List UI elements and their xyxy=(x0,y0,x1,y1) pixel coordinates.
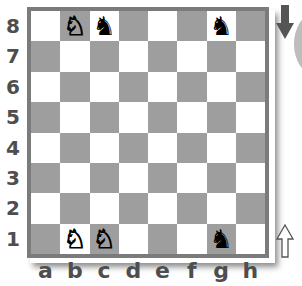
square-f7[interactable] xyxy=(177,41,206,71)
square-a1[interactable] xyxy=(31,224,60,254)
square-d8[interactable] xyxy=(119,11,148,41)
square-e8[interactable] xyxy=(148,11,177,41)
square-c6[interactable] xyxy=(90,72,119,102)
black-knight-icon[interactable]: ♞ xyxy=(92,13,115,39)
white-knight-icon[interactable]: ♘ xyxy=(63,13,86,39)
square-g4[interactable] xyxy=(207,133,236,163)
square-b2[interactable] xyxy=(60,193,89,223)
file-label-d: d xyxy=(119,258,148,283)
decorative-circle xyxy=(294,14,302,74)
file-label-a: a xyxy=(31,258,60,283)
file-label-c: c xyxy=(90,258,119,283)
square-f6[interactable] xyxy=(177,72,206,102)
square-g3[interactable] xyxy=(207,163,236,193)
rank-label-1: 1 xyxy=(3,227,23,251)
rank-label-6: 6 xyxy=(3,75,23,99)
square-b7[interactable] xyxy=(60,41,89,71)
square-e1[interactable] xyxy=(148,224,177,254)
file-label-g: g xyxy=(207,258,236,283)
square-a4[interactable] xyxy=(31,133,60,163)
square-f8[interactable] xyxy=(177,11,206,41)
square-b8[interactable]: ♘ xyxy=(60,11,89,41)
square-d5[interactable] xyxy=(119,102,148,132)
square-g7[interactable] xyxy=(207,41,236,71)
chess-board: ♘♞♞♘♘♞ xyxy=(31,11,265,254)
file-label-e: e xyxy=(148,258,177,283)
square-a3[interactable] xyxy=(31,163,60,193)
square-f4[interactable] xyxy=(177,133,206,163)
square-h5[interactable] xyxy=(236,102,265,132)
rank-label-3: 3 xyxy=(3,166,23,190)
square-g1[interactable]: ♞ xyxy=(207,224,236,254)
square-e3[interactable] xyxy=(148,163,177,193)
square-f1[interactable] xyxy=(177,224,206,254)
file-label-h: h xyxy=(236,258,265,283)
rank-label-7: 7 xyxy=(3,44,23,68)
square-h8[interactable] xyxy=(236,11,265,41)
square-g5[interactable] xyxy=(207,102,236,132)
square-e5[interactable] xyxy=(148,102,177,132)
square-c8[interactable]: ♞ xyxy=(90,11,119,41)
square-e7[interactable] xyxy=(148,41,177,71)
square-f5[interactable] xyxy=(177,102,206,132)
square-c5[interactable] xyxy=(90,102,119,132)
square-c7[interactable] xyxy=(90,41,119,71)
file-label-f: f xyxy=(177,258,206,283)
square-g2[interactable] xyxy=(207,193,236,223)
square-b1[interactable]: ♘ xyxy=(60,224,89,254)
square-g8[interactable]: ♞ xyxy=(207,11,236,41)
square-a6[interactable] xyxy=(31,72,60,102)
square-d4[interactable] xyxy=(119,133,148,163)
square-d3[interactable] xyxy=(119,163,148,193)
square-h2[interactable] xyxy=(236,193,265,223)
square-e4[interactable] xyxy=(148,133,177,163)
rank-label-5: 5 xyxy=(3,105,23,129)
square-b4[interactable] xyxy=(60,133,89,163)
square-h6[interactable] xyxy=(236,72,265,102)
rank-label-2: 2 xyxy=(3,196,23,220)
square-d1[interactable] xyxy=(119,224,148,254)
square-c2[interactable] xyxy=(90,193,119,223)
square-c3[interactable] xyxy=(90,163,119,193)
square-b3[interactable] xyxy=(60,163,89,193)
rank-label-4: 4 xyxy=(3,136,23,160)
square-a7[interactable] xyxy=(31,41,60,71)
square-d7[interactable] xyxy=(119,41,148,71)
file-label-b: b xyxy=(60,258,89,283)
square-e6[interactable] xyxy=(148,72,177,102)
square-a8[interactable] xyxy=(31,11,60,41)
square-h7[interactable] xyxy=(236,41,265,71)
square-f2[interactable] xyxy=(177,193,206,223)
square-d6[interactable] xyxy=(119,72,148,102)
square-a2[interactable] xyxy=(31,193,60,223)
square-c1[interactable]: ♘ xyxy=(90,224,119,254)
square-b6[interactable] xyxy=(60,72,89,102)
square-a5[interactable] xyxy=(31,102,60,132)
square-c4[interactable] xyxy=(90,133,119,163)
arrow-up-icon xyxy=(276,224,294,258)
square-h1[interactable] xyxy=(236,224,265,254)
square-b5[interactable] xyxy=(60,102,89,132)
square-e2[interactable] xyxy=(148,193,177,223)
rank-label-8: 8 xyxy=(3,14,23,38)
square-f3[interactable] xyxy=(177,163,206,193)
white-knight-icon[interactable]: ♘ xyxy=(63,226,86,252)
square-d2[interactable] xyxy=(119,193,148,223)
black-knight-icon[interactable]: ♞ xyxy=(209,226,232,252)
square-g6[interactable] xyxy=(207,72,236,102)
black-knight-icon[interactable]: ♞ xyxy=(209,13,232,39)
square-h4[interactable] xyxy=(236,133,265,163)
white-knight-icon[interactable]: ♘ xyxy=(92,226,115,252)
arrow-down-icon xyxy=(276,5,294,41)
square-h3[interactable] xyxy=(236,163,265,193)
